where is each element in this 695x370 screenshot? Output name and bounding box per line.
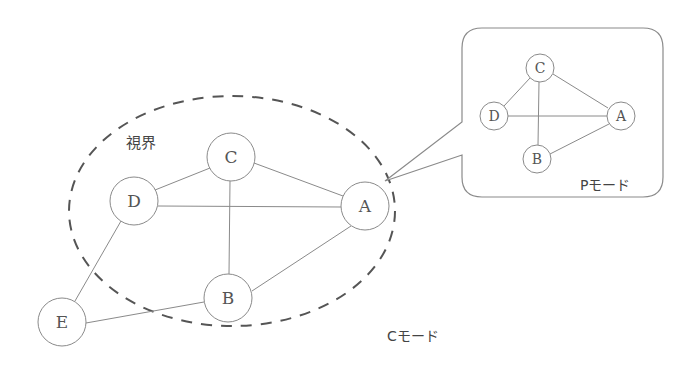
node-B: B bbox=[204, 274, 252, 322]
inset-node-label: A bbox=[615, 108, 627, 124]
diagram-canvas: C D A B E C D A B 視界 Cモード Pモード bbox=[0, 0, 695, 370]
node-D: D bbox=[110, 177, 158, 225]
inset-node-label: D bbox=[488, 108, 499, 124]
node-C: C bbox=[207, 133, 255, 181]
node-E: E bbox=[38, 298, 86, 346]
edge-D-E bbox=[75, 221, 121, 301]
edge-C-A bbox=[254, 163, 343, 196]
edge-C-B bbox=[229, 181, 230, 274]
node-label: B bbox=[222, 288, 235, 308]
c-mode-label: Cモード bbox=[387, 328, 439, 344]
inset-node-label: B bbox=[532, 151, 542, 167]
inset-node-label: C bbox=[535, 60, 546, 76]
edge-C-D bbox=[155, 168, 210, 190]
node-label: E bbox=[56, 312, 68, 332]
inset-node-C: C bbox=[526, 54, 554, 82]
inset-node-D: D bbox=[480, 102, 508, 130]
p-mode-label: Pモード bbox=[580, 177, 630, 193]
node-label: A bbox=[358, 196, 372, 216]
field-of-view-label: 視界 bbox=[126, 134, 156, 152]
inset-node-A: A bbox=[607, 102, 635, 130]
node-label: D bbox=[127, 191, 141, 211]
edge-D-A bbox=[158, 206, 341, 207]
edge-B-E bbox=[86, 302, 204, 323]
inset-node-B: B bbox=[523, 145, 551, 173]
node-A: A bbox=[341, 182, 389, 230]
node-label: C bbox=[224, 147, 237, 167]
edge-A-B bbox=[252, 226, 351, 291]
